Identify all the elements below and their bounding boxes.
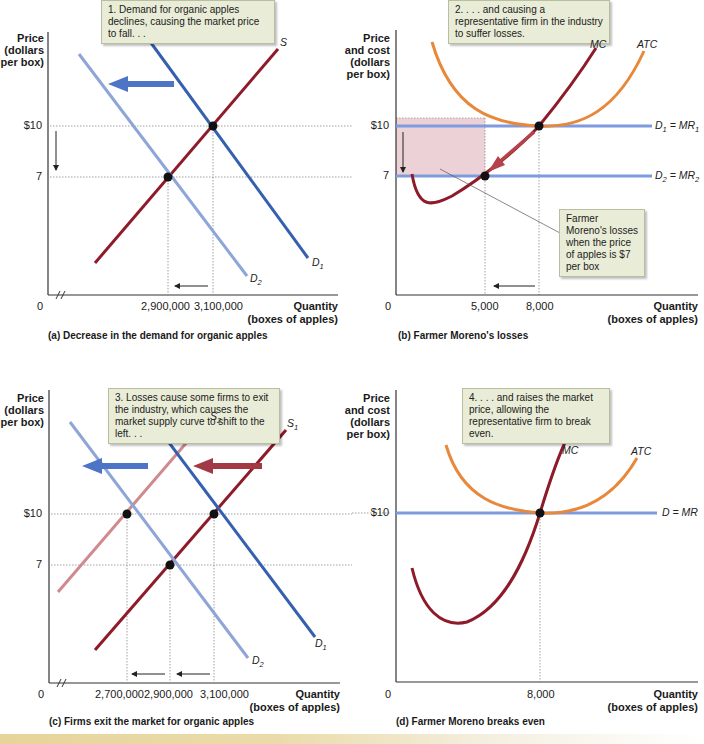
x-tick-2900000: 2,900,000 <box>144 688 193 700</box>
curve-label-atc: ATC <box>631 445 651 457</box>
x-tick-2900000: 2,900,000 <box>141 300 190 312</box>
y-axis-label: Price (dollars per box) <box>0 392 44 428</box>
annotation-note-1: 1. Demand for organic apples declines, c… <box>101 0 275 44</box>
origin-label: 0 <box>385 300 391 312</box>
curve-label-d2: D2 <box>252 654 264 669</box>
annotation-note-2: 2. . . . and causing a representative fi… <box>448 0 610 44</box>
x-tick-2700000: 2,700,000 <box>95 688 144 700</box>
y-tick-10: $10 <box>24 507 42 519</box>
supply-shift-arrow-icon <box>193 458 213 474</box>
panel-caption: (b) Farmer Moreno's losses <box>398 330 528 341</box>
x-axis-label: Quantity (boxes of apples) <box>608 688 698 714</box>
x-tick-5000: 5,000 <box>471 300 499 312</box>
x-tick-8000: 8,000 <box>526 300 554 312</box>
curve-label-atc: ATC <box>637 38 657 50</box>
curve-label-s1: S1 <box>287 417 298 432</box>
atc-curve <box>446 445 637 513</box>
origin-label: 0 <box>37 300 43 312</box>
annotation-note-3: 3. Losses cause some firms to exit the i… <box>108 388 280 444</box>
panel-caption: (a) Decrease in the demand for organic a… <box>48 330 268 341</box>
loss-output-point <box>481 172 490 181</box>
mc-slide-arrow <box>497 132 534 164</box>
curve-label-mc: MC <box>562 444 578 456</box>
demand-shift-arrow-icon <box>82 458 102 474</box>
x-axis-label: Quantity (boxes of apples) <box>608 300 698 326</box>
curve-label-s: S <box>280 36 287 48</box>
x-tick-3100000: 3,100,000 <box>194 300 243 312</box>
panel-caption: (d) Farmer Moreno breaks even <box>396 716 545 727</box>
origin-label: 0 <box>385 688 391 700</box>
x-axis-label: Quantity (boxes of apples) <box>248 300 338 326</box>
break-even-point <box>535 122 544 131</box>
curve-label-d2: D2 <box>250 272 262 287</box>
demand-curve-d2 <box>79 54 247 276</box>
equilibrium-point-initial <box>209 122 218 131</box>
y-tick-7: 7 <box>383 169 389 181</box>
x-tick-8000: 8,000 <box>527 688 555 700</box>
origin-label: 0 <box>38 688 44 700</box>
curve-label-mr1: D1 = MR1 <box>655 119 699 134</box>
curve-label-d1: D1 <box>315 637 327 652</box>
demand-shift-arrow-icon <box>108 76 128 92</box>
equilibrium-point-final <box>123 510 132 519</box>
curve-label-mr: D = MR <box>662 506 698 518</box>
panel-d-break-even: 4. . . . and raises the market price, al… <box>352 360 704 720</box>
curve-label-mc: MC <box>590 38 606 50</box>
y-tick-10: $10 <box>371 506 389 518</box>
callout-leader-line <box>440 169 560 233</box>
x-axis-label: Quantity (boxes of apples) <box>250 688 340 714</box>
y-tick-10: $10 <box>371 119 389 131</box>
break-even-point <box>536 509 545 518</box>
equilibrium-point-new <box>164 173 173 182</box>
curve-label-mr2: D2 = MR2 <box>655 169 699 184</box>
demand-curve-d1 <box>146 36 308 258</box>
panel-c-firms-exit: 3. Losses cause some firms to exit the i… <box>0 360 352 720</box>
mc-curve <box>412 436 568 623</box>
equilibrium-point-initial <box>210 510 219 519</box>
curve-label-d1: D1 <box>312 256 324 271</box>
panel-b-firm-losses: 2. . . . and causing a representative fi… <box>352 0 704 360</box>
equilibrium-point-intermediate <box>166 561 175 570</box>
y-tick-10: $10 <box>24 119 42 131</box>
demand-curve-d2 <box>70 422 248 658</box>
y-tick-7: 7 <box>36 558 42 570</box>
figure-caption-bar <box>0 734 704 744</box>
y-axis-label: Price and cost (dollars per box) <box>340 32 390 80</box>
curve-label-s2: S2 <box>210 410 221 425</box>
y-axis-label: Price and cost (dollars per box) <box>340 392 390 440</box>
y-axis-label: Price (dollars per box) <box>0 32 44 68</box>
atc-curve <box>432 42 644 126</box>
panel-caption: (c) Firms exit the market for organic ap… <box>49 716 254 727</box>
y-tick-7: 7 <box>36 170 42 182</box>
x-tick-3100000: 3,100,000 <box>200 688 249 700</box>
annotation-note-4: 4. . . . and raises the market price, al… <box>462 388 610 444</box>
panel-a-demand-decrease: 1. Demand for organic apples declines, c… <box>0 0 352 360</box>
loss-callout: Farmer Moreno's losses when the price of… <box>559 209 645 277</box>
